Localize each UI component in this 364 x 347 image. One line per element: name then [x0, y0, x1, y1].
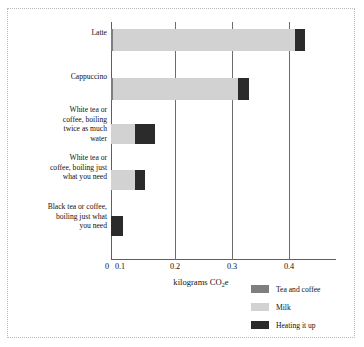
bar-segment-heating-it-up — [135, 170, 145, 190]
gridline-0.3 — [232, 22, 233, 260]
y-label-line: Latte — [11, 28, 107, 38]
bar-segment-heating-it-up — [111, 216, 123, 236]
bar-white-tea-just-enough[interactable] — [111, 170, 145, 190]
gridline-0.4 — [289, 22, 290, 260]
y-label-line: White tea or — [11, 105, 107, 115]
bar-segment-heating-it-up — [135, 124, 155, 144]
y-category-label-white-tea-twice: White tea or coffee, boiling twice as mu… — [11, 105, 111, 143]
bar-cappuccino[interactable] — [111, 78, 249, 100]
x-tick-0.3: 0.3 — [227, 262, 237, 272]
x-tick-0.2: 0.2 — [170, 262, 180, 272]
chart-legend: Tea and coffee Milk Heating it up — [251, 281, 355, 335]
y-label-line: Cappuccino — [11, 72, 107, 82]
y-label-line: water — [11, 134, 107, 144]
gridline-0.2 — [175, 22, 176, 260]
bar-black-tea-just-enough[interactable] — [111, 216, 123, 236]
y-category-label-latte: Latte — [11, 28, 111, 38]
bar-latte[interactable] — [111, 29, 305, 51]
legend-item-tea-and-coffee[interactable]: Tea and coffee — [251, 281, 355, 297]
legend-swatch-milk — [251, 303, 269, 311]
bar-segment-milk — [113, 78, 238, 100]
x-axis-title-subscript: 2 — [222, 282, 225, 288]
chart-figure: Latte Cappuccino White tea or coffee, bo… — [7, 8, 355, 338]
legend-label-tea-and-coffee: Tea and coffee — [276, 285, 320, 294]
y-category-label-cappuccino: Cappuccino — [11, 72, 111, 82]
x-axis-title-tail: e — [225, 277, 229, 287]
legend-label-heating-it-up: Heating it up — [276, 321, 316, 330]
plot-area — [111, 22, 336, 260]
x-axis-tick-labels: 0 0.1 0.2 0.3 0.4 — [111, 262, 346, 276]
legend-item-milk[interactable]: Milk — [251, 299, 355, 315]
x-axis-title-main: kilograms CO — [173, 277, 221, 287]
y-label-line: coffee, boiling — [11, 115, 107, 125]
bar-segment-milk — [111, 170, 135, 190]
bar-segment-milk — [111, 124, 135, 144]
y-axis-category-labels: Latte Cappuccino White tea or coffee, bo… — [8, 22, 111, 260]
bar-white-tea-twice-water[interactable] — [111, 124, 155, 144]
legend-swatch-heating-it-up — [251, 321, 269, 329]
y-label-line: twice as much — [11, 124, 107, 134]
y-label-line: boiling just what — [11, 212, 107, 222]
x-tick-0.4: 0.4 — [284, 262, 294, 272]
x-tick-0.1: 0.1 — [115, 262, 125, 272]
bar-segment-heating-it-up — [295, 29, 305, 51]
x-tick-0: 0 — [105, 262, 109, 272]
y-label-line: you need — [11, 221, 107, 231]
legend-swatch-tea-and-coffee — [251, 285, 269, 293]
y-category-label-black-tea-just-enough: Black tea or coffee, boiling just what y… — [11, 202, 111, 231]
y-label-line: White tea or — [11, 153, 107, 163]
y-label-line: coffee, boiling just — [11, 163, 107, 173]
bar-segment-heating-it-up — [238, 78, 249, 100]
legend-item-heating-it-up[interactable]: Heating it up — [251, 317, 355, 333]
bar-segment-milk — [113, 29, 295, 51]
y-label-line: Black tea or coffee, — [11, 202, 107, 212]
y-label-line: what you need — [11, 172, 107, 182]
legend-label-milk: Milk — [276, 303, 291, 312]
y-category-label-white-tea-just-enough: White tea or coffee, boiling just what y… — [11, 153, 111, 182]
